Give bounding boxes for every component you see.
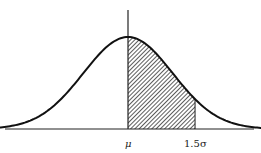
normal-distribution-chart: μ 1.5σ [0,0,261,153]
mean-label: μ [125,138,132,149]
bound-label: 1.5σ [184,138,207,149]
shaded-area-mean-to-1.5-sigma [128,37,195,129]
